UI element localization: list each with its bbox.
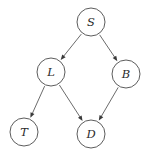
nodes-layer: SLBTD: [10, 8, 140, 148]
node-label-s: S: [87, 15, 95, 29]
node-label-d: D: [85, 127, 95, 141]
node-t[interactable]: T: [10, 118, 38, 146]
node-l[interactable]: L: [37, 58, 65, 86]
edge-s-to-l: [61, 34, 82, 60]
arrowhead-icon: [78, 115, 83, 121]
node-s[interactable]: S: [77, 8, 105, 36]
node-b[interactable]: B: [112, 60, 140, 88]
edge-b-to-d: [99, 87, 118, 120]
edge-l-to-d: [59, 85, 82, 121]
node-label-l: L: [46, 65, 55, 79]
arrowhead-icon: [113, 56, 118, 62]
node-label-b: B: [121, 67, 130, 81]
node-label-t: T: [20, 125, 29, 139]
arrowhead-icon: [30, 112, 34, 118]
dag-graph: SLBTD: [0, 0, 152, 160]
node-d[interactable]: D: [77, 120, 105, 148]
arrowhead-icon: [99, 115, 103, 121]
edge-l-to-t: [30, 86, 44, 118]
diagram-canvas: SLBTD: [0, 0, 152, 160]
edge-s-to-b: [100, 35, 118, 61]
